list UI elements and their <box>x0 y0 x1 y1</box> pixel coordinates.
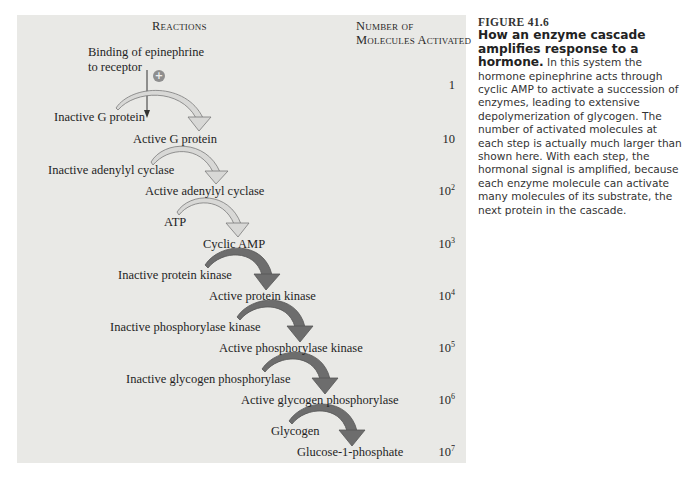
figure-label: FIGURE 41.6 <box>478 16 683 29</box>
trigger-label-line2: to receptor <box>88 60 142 75</box>
count-base: 10 <box>439 289 452 303</box>
step-count: 104 <box>415 289 455 304</box>
count-exponent: 6 <box>451 392 455 401</box>
count-trigger: 1 <box>415 78 455 93</box>
step-output-label: Cyclic AMP <box>203 237 265 252</box>
step-input-label: ATP <box>164 215 186 230</box>
step-input-label: Inactive glycogen phosphorylase <box>126 372 291 387</box>
count-exponent: 4 <box>451 288 455 297</box>
step-output-label: Active G protein <box>133 132 217 147</box>
count-base: 10 <box>439 445 452 459</box>
count-base: 10 <box>439 393 452 407</box>
step-input-label: Inactive G protein <box>54 110 145 125</box>
molecules-header-line1: Number of <box>356 19 413 34</box>
figure-caption: FIGURE 41.6 How an enzyme cascade amplif… <box>478 16 683 217</box>
step-count: 103 <box>415 237 455 252</box>
step-input-label: Inactive protein kinase <box>118 268 232 283</box>
plus-icon: + <box>153 70 165 82</box>
step-output-label: Glucose-1-phosphate <box>297 445 403 460</box>
caption-text: How an enzyme cascade amplifies response… <box>478 29 683 217</box>
step-input-label: Inactive adenylyl cyclase <box>48 163 174 178</box>
trigger-label-line1: Binding of epinephrine <box>88 45 204 60</box>
step-count: 107 <box>415 445 455 460</box>
count-exponent: 7 <box>451 444 455 453</box>
count-base: 10 <box>439 237 452 251</box>
step-input-label: Inactive phosphorylase kinase <box>110 320 261 335</box>
step-output-label: Active protein kinase <box>209 289 316 304</box>
step-input-label: Glycogen <box>271 424 320 439</box>
reactions-header: Reactions <box>152 19 207 34</box>
step-count: 102 <box>415 184 455 199</box>
molecules-header-line2: Molecules Activated <box>356 33 471 48</box>
step-count: 105 <box>415 341 455 356</box>
step-output-label: Active adenylyl cyclase <box>145 184 264 199</box>
count-exponent: 2 <box>451 183 455 192</box>
step-output-label: Active phosphorylase kinase <box>219 341 363 356</box>
step-count: 10 <box>415 132 455 147</box>
count-base: 10 <box>439 341 452 355</box>
count-value: 10 <box>443 132 456 146</box>
caption-body: In this system the hormone epinephrine a… <box>478 56 682 215</box>
count-exponent: 3 <box>451 236 455 245</box>
count-base: 10 <box>439 184 452 198</box>
step-count: 106 <box>415 393 455 408</box>
curved-arrow-icon-3 <box>177 198 249 237</box>
step-output-label: Active glycogen phosphorylase <box>241 393 399 408</box>
count-exponent: 5 <box>451 340 455 349</box>
